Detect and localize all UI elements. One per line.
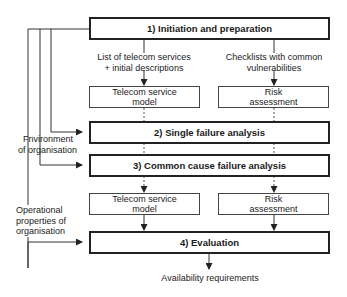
risk-assessment-box-bottom: Risk assessment	[218, 193, 329, 215]
risk-assessment-box-top: Risk assessment	[218, 86, 329, 108]
telecom-service-model-box-top: Telecom service model	[89, 86, 200, 108]
step-evaluation-box: 4) Evaluation	[89, 231, 330, 254]
operational-properties-label: Operational properties of organisation	[16, 205, 86, 237]
step-common-cause-box: 3) Common cause failure analysis	[89, 154, 330, 177]
checklists-label: Checklists with common vulnerabilities	[218, 52, 330, 73]
telecom-list-label: List of telecom services + initial descr…	[92, 52, 196, 73]
diagram-canvas: 1) Initiation and preparation List of te…	[0, 0, 347, 297]
step-initiation-box: 1) Initiation and preparation	[89, 17, 330, 40]
telecom-service-model-box-bottom: Telecom service model	[89, 193, 200, 215]
step-1-label: 1) Initiation and preparation	[147, 23, 272, 34]
step-4-label: 4) Evaluation	[180, 237, 239, 248]
step-3-label: 3) Common cause failure analysis	[133, 160, 286, 171]
step-single-failure-box: 2) Single failure analysis	[89, 121, 330, 144]
environment-label: Fnvironment of organisation	[18, 134, 88, 155]
availability-requirements-label: Availability requirements	[140, 273, 280, 284]
step-2-label: 2) Single failure analysis	[154, 127, 265, 138]
